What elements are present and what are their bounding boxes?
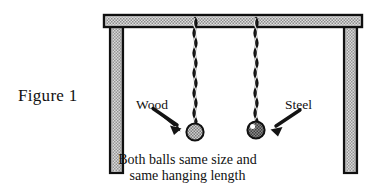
wood-pointer-arrow — [153, 109, 182, 136]
horizontal-beam — [104, 15, 362, 27]
right-support-post — [344, 22, 357, 173]
steel-pointer-arrow — [271, 110, 301, 137]
wood-ball-string — [193, 18, 196, 124]
caption-line-2: same hanging length — [0, 168, 375, 184]
caption-line-1: Both balls same size and — [0, 152, 375, 168]
figure-1-pendulum-diagram: Figure 1 Wood Steel Both balls same size… — [0, 0, 375, 194]
figure-label: Figure 1 — [18, 86, 78, 105]
wood-ball — [186, 123, 203, 140]
steel-ball — [247, 121, 264, 138]
steel-ball-string — [254, 18, 257, 122]
wood-ball-label: Wood — [136, 97, 168, 112]
figure-caption: Both balls same size and same hanging le… — [0, 152, 375, 183]
left-support-post — [110, 22, 123, 173]
steel-ball-label: Steel — [285, 97, 312, 112]
